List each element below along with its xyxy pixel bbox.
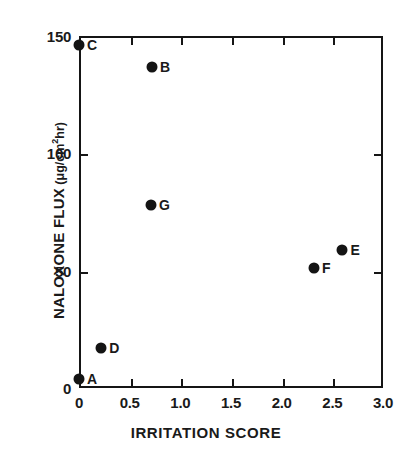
- scatter-chart-figure: 00.51.01.52.02.53.0050100150ABCDEFG IRRI…: [0, 0, 412, 461]
- data-point-E: [337, 244, 348, 255]
- x-tick-top-0.5: [131, 38, 133, 45]
- y-axis-unit-exponent: 2: [50, 139, 60, 144]
- y-tick-right-100: [374, 154, 381, 156]
- data-point-label-G: G: [159, 197, 170, 213]
- y-tick-left-50: [81, 272, 88, 274]
- data-point-label-B: B: [160, 59, 170, 75]
- y-axis-title-text: NALOXONE FLUX: [50, 188, 67, 319]
- y-tick-left-100: [81, 154, 88, 156]
- x-tick-label-1.0: 1.0: [170, 394, 190, 411]
- x-tick-top-1.5: [232, 38, 234, 45]
- plot-area: [79, 36, 383, 388]
- data-point-label-D: D: [109, 340, 119, 356]
- x-tick-label-2.0: 2.0: [272, 394, 292, 411]
- x-tick-bottom-1.5: [232, 379, 234, 386]
- data-point-C: [74, 40, 85, 51]
- x-tick-label-3.0: 3.0: [373, 394, 393, 411]
- data-point-D: [96, 343, 107, 354]
- data-point-label-E: E: [350, 242, 359, 258]
- x-tick-top-2.5: [333, 38, 335, 45]
- x-axis-title: IRRITATION SCORE: [0, 424, 412, 441]
- data-point-label-A: A: [87, 371, 97, 387]
- y-axis-unit-prefix: (μg/cm: [53, 144, 67, 185]
- x-tick-bottom-2.0: [283, 379, 285, 386]
- y-axis-unit-suffix: hr): [53, 122, 67, 139]
- data-point-label-C: C: [87, 37, 97, 53]
- y-tick-label-150: 150: [21, 28, 71, 45]
- x-tick-bottom-0.5: [131, 379, 133, 386]
- y-tick-right-50: [374, 272, 381, 274]
- x-tick-bottom-1.0: [181, 379, 183, 386]
- x-tick-label-2.5: 2.5: [322, 394, 342, 411]
- x-tick-bottom-2.5: [333, 379, 335, 386]
- x-tick-label-0.5: 0.5: [120, 394, 140, 411]
- y-tick-label-0: 0: [21, 380, 71, 397]
- x-tick-label-1.5: 1.5: [221, 394, 241, 411]
- x-tick-top-2.0: [283, 38, 285, 45]
- data-point-B: [146, 61, 157, 72]
- data-point-F: [309, 263, 320, 274]
- y-axis-unit: (μg/cm2hr): [53, 122, 67, 188]
- data-point-label-F: F: [322, 260, 331, 276]
- x-tick-top-1.0: [181, 38, 183, 45]
- y-axis-title: NALOXONE FLUX (μg/cm2hr): [50, 71, 67, 371]
- data-point-A: [74, 373, 85, 384]
- x-tick-label-0: 0: [75, 394, 83, 411]
- data-point-G: [145, 199, 156, 210]
